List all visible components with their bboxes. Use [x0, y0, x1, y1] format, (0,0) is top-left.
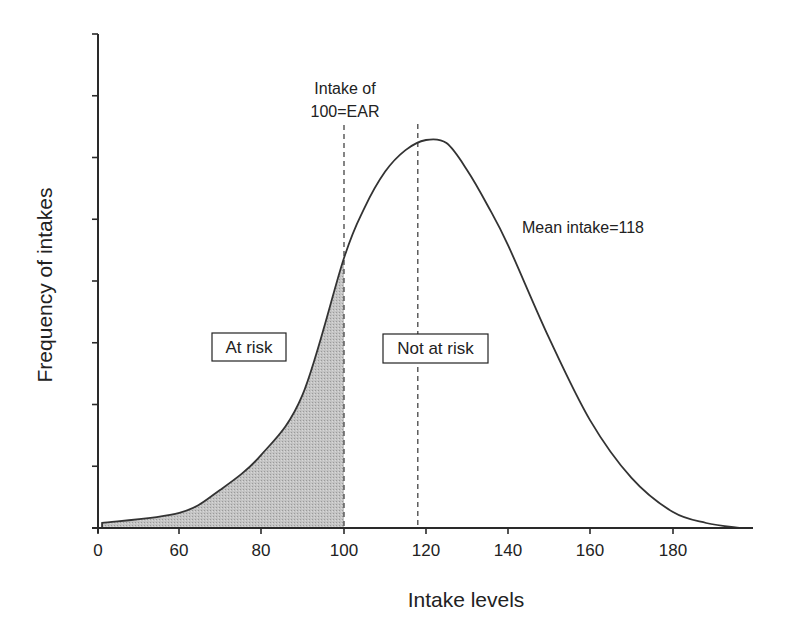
- at-risk-label-box: At risk: [212, 333, 286, 361]
- x-tick-label: 80: [252, 541, 271, 560]
- x-tick-label: 120: [412, 541, 440, 560]
- x-tick-label: 160: [576, 541, 604, 560]
- x-tick-label: 100: [330, 541, 358, 560]
- x-axis-title: Intake levels: [408, 588, 525, 611]
- x-tick-label: 140: [494, 541, 522, 560]
- x-ticks: 06080100120140160180: [93, 528, 687, 560]
- x-tick-label: 180: [659, 541, 687, 560]
- ear-annotation-line2: 100=EAR: [311, 103, 380, 120]
- at-risk-label: At risk: [225, 338, 273, 357]
- y-axis-title: Frequency of intakes: [33, 188, 56, 383]
- not-at-risk-label-box: Not at risk: [383, 334, 488, 363]
- not-at-risk-label: Not at risk: [397, 339, 474, 358]
- x-tick-label: 60: [170, 541, 189, 560]
- ear-annotation-line1: Intake of: [314, 80, 376, 97]
- x-tick-label: 0: [93, 541, 102, 560]
- mean-intake-annotation: Mean intake=118: [522, 219, 644, 236]
- intake-distribution-chart: 06080100120140160180 Intake of 100=EAR M…: [0, 0, 792, 632]
- axes: 06080100120140160180: [92, 34, 753, 560]
